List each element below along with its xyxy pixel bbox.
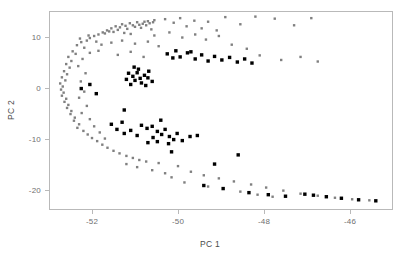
data-point bbox=[62, 85, 64, 87]
data-point bbox=[67, 56, 69, 58]
data-point bbox=[134, 42, 136, 44]
data-point bbox=[233, 180, 235, 182]
data-point bbox=[83, 90, 85, 92]
data-point bbox=[121, 23, 123, 25]
data-point bbox=[127, 72, 130, 75]
data-point bbox=[284, 195, 287, 198]
data-point bbox=[207, 185, 209, 187]
data-point bbox=[194, 57, 197, 60]
data-point bbox=[247, 191, 250, 194]
data-point bbox=[74, 116, 76, 118]
data-point bbox=[177, 165, 179, 167]
data-point bbox=[138, 77, 141, 80]
data-point bbox=[172, 138, 175, 141]
data-point bbox=[104, 137, 106, 139]
data-point bbox=[114, 25, 116, 27]
data-point bbox=[86, 105, 88, 107]
data-point bbox=[71, 50, 73, 52]
data-point bbox=[80, 80, 82, 82]
data-point bbox=[70, 110, 72, 112]
data-point bbox=[153, 34, 155, 36]
data-point bbox=[203, 174, 205, 176]
data-point bbox=[78, 97, 80, 99]
y-tick-mark bbox=[45, 139, 49, 140]
y-tick-mark bbox=[45, 190, 49, 191]
data-point bbox=[357, 198, 360, 201]
x-tick-label: -50 bbox=[172, 217, 184, 226]
data-point bbox=[151, 169, 153, 171]
data-point bbox=[66, 73, 68, 75]
y-tick-mark bbox=[45, 88, 49, 89]
x-tick-label: -52 bbox=[86, 217, 98, 226]
x-tick-mark bbox=[264, 210, 265, 214]
data-point bbox=[145, 160, 147, 162]
data-point bbox=[60, 88, 62, 90]
data-point bbox=[256, 193, 258, 195]
data-point bbox=[93, 35, 95, 37]
data-point bbox=[168, 135, 171, 138]
data-points-layer bbox=[0, 0, 420, 258]
data-point bbox=[120, 121, 123, 124]
data-point bbox=[124, 25, 126, 27]
data-point bbox=[163, 128, 166, 131]
data-point bbox=[168, 31, 170, 33]
data-point bbox=[117, 54, 119, 56]
data-point bbox=[63, 101, 65, 103]
data-point bbox=[87, 133, 89, 135]
data-point bbox=[265, 186, 267, 188]
data-point bbox=[171, 56, 174, 59]
data-point bbox=[119, 26, 121, 28]
data-point bbox=[69, 113, 71, 115]
data-point bbox=[104, 32, 106, 34]
data-point bbox=[351, 198, 353, 200]
data-point bbox=[140, 27, 142, 29]
data-point bbox=[237, 153, 240, 156]
data-point bbox=[96, 140, 98, 142]
data-point bbox=[179, 17, 181, 19]
data-point bbox=[61, 95, 63, 97]
data-point bbox=[151, 80, 154, 83]
data-point bbox=[250, 61, 253, 64]
data-point bbox=[115, 128, 118, 131]
data-point bbox=[66, 107, 68, 109]
data-point bbox=[178, 55, 181, 58]
data-point bbox=[239, 190, 241, 192]
data-point bbox=[156, 140, 159, 143]
data-point bbox=[89, 118, 91, 120]
data-point bbox=[80, 87, 83, 90]
data-point bbox=[68, 66, 70, 68]
data-point bbox=[126, 28, 128, 30]
data-point bbox=[102, 31, 104, 33]
data-point bbox=[100, 43, 102, 45]
data-point bbox=[218, 35, 220, 37]
data-point bbox=[317, 195, 319, 197]
data-point bbox=[147, 40, 149, 42]
data-point bbox=[205, 38, 207, 40]
data-point bbox=[95, 92, 98, 95]
data-point bbox=[101, 143, 103, 145]
data-point bbox=[164, 172, 166, 174]
data-point bbox=[220, 58, 223, 61]
data-point bbox=[145, 24, 147, 26]
data-point bbox=[142, 56, 144, 58]
data-point bbox=[231, 43, 233, 45]
data-point bbox=[97, 33, 99, 35]
data-point bbox=[170, 176, 172, 178]
data-point bbox=[188, 135, 191, 138]
data-point bbox=[132, 24, 134, 26]
data-point bbox=[80, 41, 82, 43]
data-point bbox=[78, 123, 80, 125]
y-axis-title: PC 2 bbox=[6, 100, 16, 120]
data-point bbox=[59, 82, 61, 84]
data-point bbox=[181, 36, 183, 38]
data-point bbox=[243, 57, 246, 60]
scatter-plot-figure: -52-50-48-46 100-10-20 PC 1 PC 2 bbox=[0, 0, 420, 258]
data-point bbox=[143, 21, 145, 23]
data-point bbox=[183, 181, 185, 183]
data-point bbox=[221, 187, 224, 190]
data-point bbox=[310, 17, 312, 19]
data-point bbox=[89, 52, 91, 54]
data-point bbox=[173, 22, 175, 24]
data-point bbox=[147, 70, 150, 73]
data-point bbox=[282, 189, 284, 191]
